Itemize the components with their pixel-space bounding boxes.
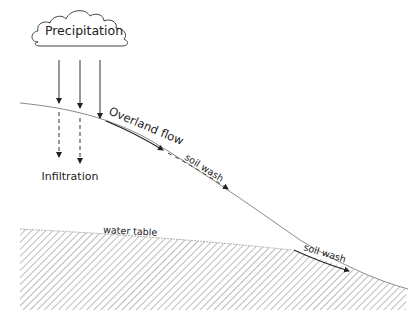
infiltration-label: Infiltration: [42, 170, 99, 183]
diagram-canvas: Precipitation Infiltration Overland flow…: [0, 0, 420, 327]
infiltration-arrows: [59, 112, 80, 163]
water-table-region: [20, 229, 406, 310]
soil-wash-upper-label: soil wash: [183, 151, 226, 183]
precipitation-label: Precipitation: [45, 23, 123, 38]
